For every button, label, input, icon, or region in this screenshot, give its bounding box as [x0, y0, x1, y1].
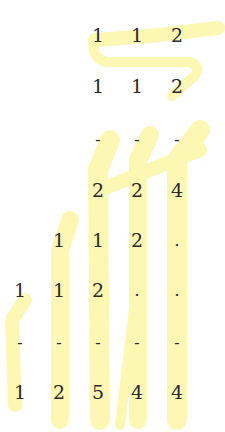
rule-2-digit: - — [47, 332, 71, 354]
partial-2-digit: . — [165, 229, 189, 251]
partial-1-digit: 4 — [165, 179, 189, 201]
result-digit: 1 — [8, 381, 32, 403]
partial-3-digit: 1 — [47, 279, 71, 301]
result-digit: 4 — [125, 381, 149, 403]
highlight-stroke-col4 — [177, 130, 200, 420]
rule-2-digit: - — [8, 332, 32, 354]
partial-3-digit: 1 — [8, 279, 32, 301]
result-digit: 2 — [47, 381, 71, 403]
partial-1-digit: 2 — [86, 179, 110, 201]
rule-1-digit: - — [165, 129, 189, 151]
result-digit: 4 — [165, 381, 189, 403]
highlighter-marks — [0, 0, 225, 432]
partial-2-digit: 1 — [47, 229, 71, 251]
rule-2-digit: - — [86, 332, 110, 354]
rule-1-digit: - — [86, 129, 110, 151]
multiplier-digit: 1 — [86, 75, 110, 97]
result-digit: 5 — [86, 381, 110, 403]
rule-2-digit: - — [165, 332, 189, 354]
rule-1-digit: - — [125, 129, 149, 151]
multiplicand-digit: 2 — [165, 24, 189, 46]
partial-2-digit: 2 — [125, 229, 149, 251]
partial-1-digit: 2 — [125, 179, 149, 201]
multiplicand-digit: 1 — [86, 24, 110, 46]
partial-3-digit: . — [125, 279, 149, 301]
multiplicand-digit: 1 — [125, 24, 149, 46]
partial-3-digit: 2 — [86, 279, 110, 301]
multiplier-digit: 2 — [165, 75, 189, 97]
multiplier-digit: 1 — [125, 75, 149, 97]
partial-2-digit: 1 — [86, 229, 110, 251]
partial-3-digit: . — [165, 279, 189, 301]
rule-2-digit: - — [125, 332, 149, 354]
highlight-stroke-top — [95, 28, 218, 40]
